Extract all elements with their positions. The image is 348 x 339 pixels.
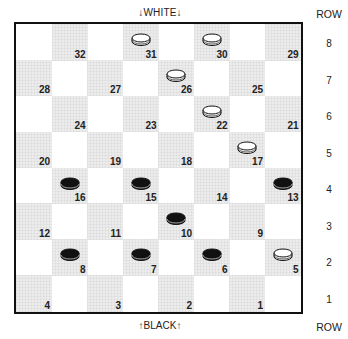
square-number: 8 (80, 264, 86, 275)
board-square-21: 21 (265, 96, 301, 133)
square-number: 5 (293, 264, 299, 275)
row-number-1: 1 (312, 294, 346, 305)
board-square-5: 5 (265, 239, 301, 276)
black-checker-piece (60, 248, 80, 262)
board-square-18: 18 (158, 132, 194, 169)
square-number: 11 (111, 228, 122, 239)
board-square-25: 25 (229, 60, 265, 97)
square-number: 13 (287, 192, 298, 203)
black-checker-piece (202, 248, 222, 262)
row-number-3: 3 (312, 221, 346, 232)
square-number: 2 (187, 300, 193, 311)
white-side-label: ↓WHITE↓ (0, 7, 320, 18)
black-checker-piece (60, 177, 80, 191)
board-square-8: 8 (52, 239, 88, 276)
square-number: 32 (74, 49, 85, 60)
board-square-29: 29 (265, 24, 301, 61)
board-square-27: 27 (87, 60, 123, 97)
board-square-24: 24 (52, 96, 88, 133)
board-square-26: 26 (158, 60, 194, 97)
square-number: 26 (181, 84, 192, 95)
board-square-6: 6 (194, 239, 230, 276)
square-number: 1 (258, 300, 264, 311)
black-side-label: ↑BLACK↑ (0, 320, 320, 331)
square-number: 9 (258, 228, 264, 239)
square-number: 28 (39, 84, 50, 95)
white-checker-piece (166, 69, 186, 83)
square-number: 20 (39, 156, 50, 167)
square-number: 7 (151, 264, 157, 275)
board-square-9: 9 (229, 203, 265, 240)
square-number: 24 (74, 120, 85, 131)
row-number-8: 8 (312, 38, 346, 49)
black-checker-piece (166, 212, 186, 226)
row-header-bottom: ROW (312, 321, 346, 333)
board-square-22: 22 (194, 96, 230, 133)
square-number: 23 (145, 120, 156, 131)
square-number: 14 (216, 192, 227, 203)
square-number: 21 (287, 120, 298, 131)
square-number: 17 (252, 156, 263, 167)
board-square-13: 13 (265, 168, 301, 205)
board-square-14: 14 (194, 168, 230, 205)
board-square-3: 3 (87, 275, 123, 312)
black-checker-piece (131, 248, 151, 262)
board-square-23: 23 (123, 96, 159, 133)
square-number: 15 (145, 192, 156, 203)
black-checker-piece (131, 177, 151, 191)
square-number: 29 (287, 49, 298, 60)
white-checker-piece (202, 105, 222, 119)
board-square-16: 16 (52, 168, 88, 205)
square-number: 30 (216, 49, 227, 60)
square-number: 12 (39, 228, 50, 239)
square-number: 27 (110, 84, 121, 95)
board-square-12: 12 (16, 203, 52, 240)
board-square-10: 10 (158, 203, 194, 240)
board-square-20: 20 (16, 132, 52, 169)
row-header-top: ROW (312, 8, 346, 20)
board-square-11: 11 (87, 203, 123, 240)
board-square-30: 30 (194, 24, 230, 61)
board-square-15: 15 (123, 168, 159, 205)
square-number: 18 (181, 156, 192, 167)
board-square-28: 28 (16, 60, 52, 97)
row-number-2: 2 (312, 257, 346, 268)
board-square-7: 7 (123, 239, 159, 276)
white-checker-piece (273, 248, 293, 262)
black-checker-piece (273, 177, 293, 191)
white-checker-piece (131, 33, 151, 47)
white-checker-piece (202, 33, 222, 47)
board-square-1: 1 (229, 275, 265, 312)
board-square-4: 4 (16, 275, 52, 312)
board-square-17: 17 (229, 132, 265, 169)
square-number: 22 (216, 120, 227, 131)
square-number: 4 (45, 300, 51, 311)
checkerboard: 3231302928272625242322212019181716151413… (14, 22, 303, 314)
board-square-32: 32 (52, 24, 88, 61)
board-square-2: 2 (158, 275, 194, 312)
board-square-31: 31 (123, 24, 159, 61)
row-number-6: 6 (312, 111, 346, 122)
square-number: 3 (116, 300, 122, 311)
white-checker-piece (237, 141, 257, 155)
square-number: 19 (110, 156, 121, 167)
square-number: 31 (145, 49, 156, 60)
square-number: 6 (222, 264, 228, 275)
square-number: 16 (74, 192, 85, 203)
row-number-5: 5 (312, 148, 346, 159)
square-number: 25 (252, 84, 263, 95)
square-number: 10 (181, 228, 192, 239)
row-number-7: 7 (312, 75, 346, 86)
row-number-4: 4 (312, 184, 346, 195)
board-square-19: 19 (87, 132, 123, 169)
